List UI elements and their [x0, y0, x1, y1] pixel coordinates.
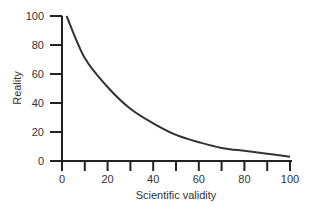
x-tick-label: 20	[101, 173, 113, 185]
x-tick-label: 100	[281, 173, 299, 185]
x-tick-label: 40	[147, 173, 159, 185]
y-axis-ticks: 020406080100	[26, 10, 62, 167]
axes	[50, 16, 292, 166]
chart: 020406080100 020406080100 Scientific val…	[0, 0, 309, 213]
x-tick-label: 80	[238, 173, 250, 185]
line-chart: 020406080100 020406080100 Scientific val…	[0, 0, 309, 213]
y-tick-label: 20	[32, 126, 44, 138]
y-tick-label: 100	[26, 10, 44, 22]
y-axis-title: Reality	[11, 71, 23, 105]
x-tick-label: 0	[59, 173, 65, 185]
y-tick-label: 40	[32, 97, 44, 109]
y-tick-label: 60	[32, 68, 44, 80]
y-tick-label: 0	[38, 155, 44, 167]
x-axis-title: Scientific validity	[136, 189, 217, 201]
data-line	[67, 16, 290, 157]
x-tick-label: 60	[193, 173, 205, 185]
x-axis-ticks: 020406080100	[59, 161, 299, 185]
y-tick-label: 80	[32, 39, 44, 51]
